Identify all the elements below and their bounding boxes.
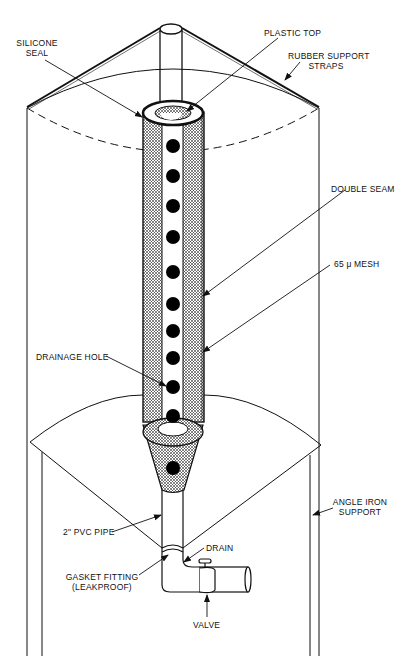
label-silicone-seal: SILICONE SEAL [12, 38, 62, 58]
label-double-seam: DOUBLE SEAM [331, 184, 395, 194]
tank-diagram [0, 0, 407, 656]
label-valve: VALVE [193, 620, 220, 630]
label-drain: DRAIN [206, 543, 233, 553]
label-plastic-top: PLASTIC TOP [264, 28, 321, 38]
valve [199, 559, 251, 593]
label-mesh: 65 μ MESH [334, 259, 379, 269]
mesh-cone [143, 418, 203, 493]
pvc-pipe [162, 490, 200, 592]
label-angle-iron-line1: ANGLE IRON [330, 497, 390, 507]
label-rubber-straps-line1: RUBBER SUPPORT [288, 51, 364, 61]
label-rubber-support-straps: RUBBER SUPPORT STRAPS [288, 51, 364, 71]
label-rubber-straps-line2: STRAPS [288, 61, 364, 71]
label-gasket-fitting: GASKET FITTING (LEAKPROOF) [62, 572, 142, 592]
label-pvc-pipe: 2" PVC PIPE [63, 527, 115, 537]
label-silicone-seal-line1: SILICONE [12, 38, 62, 48]
label-gasket-line2: (LEAKPROOF) [62, 582, 142, 592]
label-angle-iron-line2: SUPPORT [330, 507, 390, 517]
label-drainage-hole: DRAINAGE HOLE [36, 352, 109, 362]
label-gasket-line1: GASKET FITTING [62, 572, 142, 582]
label-silicone-seal-line2: SEAL [12, 48, 62, 58]
label-angle-iron-support: ANGLE IRON SUPPORT [330, 497, 390, 517]
inner-pipe-top [160, 24, 182, 112]
